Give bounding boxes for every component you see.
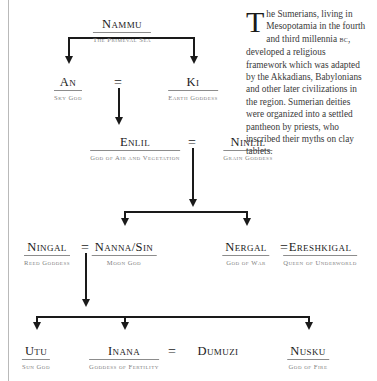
union-symbol-an-ki: = (114, 78, 122, 88)
connector-union-to-children (192, 148, 194, 203)
deity-node-utu[interactable]: UtuSun God (22, 345, 50, 372)
deity-name-nammu: Nammu (93, 18, 151, 33)
description-text: The Sumerians, living in Mesopotamia in … (246, 8, 368, 158)
deity-name-enlil: Enlil (90, 136, 180, 151)
deity-node-nammu[interactable]: NammuThe Primeval Sea (93, 18, 151, 45)
deity-role-an: Sky God (54, 91, 82, 103)
deity-role-nammu: The Primeval Sea (93, 33, 151, 45)
arrow-utu (33, 322, 41, 330)
deity-node-an[interactable]: AnSky God (54, 76, 82, 103)
deity-name-ereshkigal: Ereshkigal (283, 241, 357, 256)
deity-node-ereshkigal[interactable]: EreshkigalQueen of Underworld (283, 241, 357, 268)
deity-node-nusku[interactable]: NuskuGod of Fire (287, 345, 329, 372)
arrow-gen4 (82, 299, 90, 307)
union-symbol-inana-dumuzi: = (168, 347, 176, 357)
connector-gen4-bar (36, 316, 308, 318)
arrow-an (65, 56, 73, 64)
deity-name-ki: Ki (168, 76, 218, 91)
deity-name-nergal: Nergal (222, 241, 269, 256)
description-part1: he Sumerians, living in Mesopotamia in t… (266, 9, 365, 44)
arrow-nergal (243, 218, 251, 226)
deity-role-ningal: Reed Goddess (24, 256, 70, 268)
arrow-inana (121, 322, 129, 330)
deity-role-enlil: God of Air and Vegetation (90, 151, 180, 163)
connector-nanna-to-gen4 (85, 253, 87, 303)
arrow-ki (190, 56, 198, 64)
deity-role-ereshkigal: Queen of Underworld (283, 256, 357, 268)
drop-cap: T (246, 8, 266, 34)
arrow-nusku (305, 322, 313, 330)
deity-name-nusku: Nusku (287, 345, 329, 360)
deity-name-inana: Inana (89, 345, 159, 360)
deity-role-utu: Sun God (22, 360, 50, 372)
deity-node-nannasin[interactable]: Nanna/SinMoon God (92, 241, 157, 268)
deity-role-nusku: God of Fire (287, 360, 329, 372)
union-symbol-ningal-nannasin: = (81, 243, 89, 253)
deity-node-ningal[interactable]: NingalReed Goddess (24, 241, 70, 268)
deity-node-ki[interactable]: KiEarth Goddess (168, 76, 218, 103)
arrow-children (189, 199, 197, 207)
union-symbol-enlil-ninlil: = (188, 138, 196, 148)
deity-node-nergal[interactable]: NergalGod of War (222, 241, 269, 268)
arrow-enlil (115, 117, 123, 125)
connector-children-bar (124, 211, 246, 213)
page-left-rule (8, 0, 9, 381)
deity-role-nergal: God of War (222, 256, 269, 268)
pantheon-chart-page: ===== NammuThe Primeval SeaAnSky GodKiEa… (0, 0, 377, 381)
deity-node-dumuzi[interactable]: Dumuzi (195, 345, 242, 359)
arrow-nannasin (121, 218, 129, 226)
era-label: bc (339, 35, 348, 44)
deity-name-dumuzi: Dumuzi (195, 345, 242, 359)
deity-name-ningal: Ningal (24, 241, 70, 256)
deity-role-nannasin: Moon God (92, 256, 157, 268)
deity-name-nannasin: Nanna/Sin (92, 241, 157, 256)
description-part2: , developed a religious framework which … (246, 34, 362, 157)
deity-role-ki: Earth Goddess (168, 91, 218, 103)
deity-node-enlil[interactable]: EnlilGod of Air and Vegetation (90, 136, 180, 163)
deity-name-an: An (54, 76, 82, 91)
deity-node-inana[interactable]: InanaGoddess of Fertility (89, 345, 159, 372)
deity-role-inana: Goddess of Fertility (89, 360, 159, 372)
deity-name-utu: Utu (22, 345, 50, 360)
